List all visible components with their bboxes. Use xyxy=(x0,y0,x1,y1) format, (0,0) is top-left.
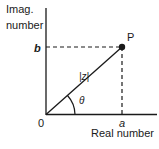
angle-label: θ xyxy=(79,95,85,106)
y-axis-label-line2: number xyxy=(6,19,44,31)
b-label: b xyxy=(34,42,41,54)
point-p-label: P xyxy=(127,31,134,43)
angle-arc xyxy=(68,96,76,115)
complex-plane-diagram: Imag. number b P |z| θ 0 a Real number xyxy=(0,0,159,149)
y-axis-label-line1: Imag. xyxy=(6,3,34,15)
point-p-marker xyxy=(119,44,125,50)
magnitude-label: |z| xyxy=(79,71,89,82)
origin-label: 0 xyxy=(38,117,44,129)
x-axis-label: Real number xyxy=(91,127,154,139)
